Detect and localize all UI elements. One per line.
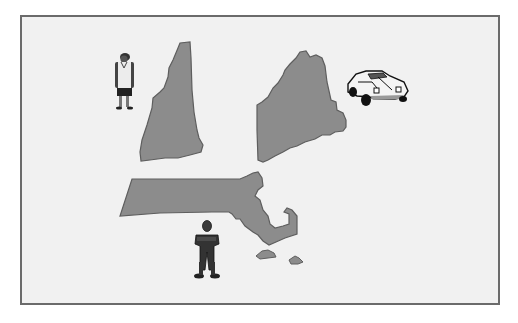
new-england-illustration [0, 0, 518, 323]
car [348, 71, 408, 106]
man-figure [194, 221, 220, 279]
massachusetts-shape [120, 172, 297, 245]
new-hampshire-shape [140, 42, 203, 161]
nantucket-shape [289, 256, 303, 264]
woman-figure [115, 53, 134, 110]
marthas-vineyard-shape [256, 250, 276, 259]
maine-shape [257, 51, 346, 162]
